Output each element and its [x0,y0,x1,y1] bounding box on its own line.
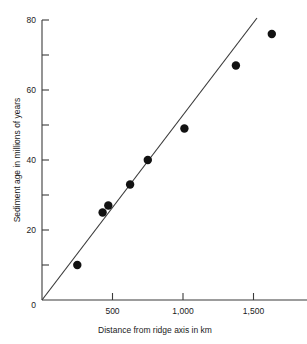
x-axis-tick-labels: 500 1,000 1,500 [105,306,264,316]
y-axis-title: Sediment age in millions of years [12,98,22,223]
data-point [126,180,134,188]
axes-group [42,20,307,300]
scatter-plot-svg: 80 60 40 20 0 500 1,000 1,500 Distance f… [0,0,307,344]
chart-figure: 80 60 40 20 0 500 1,000 1,500 Distance f… [0,0,307,344]
data-point [268,30,276,38]
data-point [98,208,106,216]
x-tick-label-1500: 1,500 [243,306,265,316]
x-axis-title: Distance from ridge axis in km [98,325,212,335]
x-tick-label-1000: 1,000 [172,306,194,316]
data-point [180,124,188,132]
data-points-group [73,30,276,269]
y-tick-label-80: 80 [27,15,37,25]
y-tick-label-0: 0 [31,300,36,310]
data-point [73,261,81,269]
data-point [104,201,112,209]
x-axis-major-ticks [113,293,254,300]
y-tick-label-60: 60 [27,85,37,95]
y-tick-label-40: 40 [27,155,37,165]
x-tick-label-500: 500 [105,306,119,316]
data-point [144,156,152,164]
y-tick-label-20: 20 [27,225,37,235]
data-point [232,61,240,69]
y-axis-tick-labels: 80 60 40 20 0 [27,15,37,310]
